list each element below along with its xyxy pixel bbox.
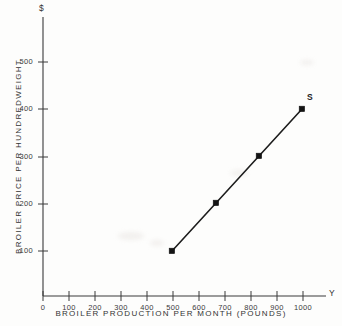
plot-canvas bbox=[0, 0, 342, 326]
x-axis-symbol: Y bbox=[329, 288, 335, 298]
chart-figure: $ Y S 100 200 300 400 500 0 100 200 300 … bbox=[0, 0, 342, 326]
data-point bbox=[299, 106, 304, 111]
data-point bbox=[256, 153, 261, 158]
supply-curve-annotation: S bbox=[307, 92, 313, 102]
y-axis-title: BROILER PRICE PER HUNDREDWEIGHT bbox=[14, 27, 23, 287]
data-point bbox=[213, 200, 218, 205]
supply-curve-line bbox=[172, 109, 302, 251]
x-axis-title: BROILER PRODUCTION PER MONTH (POUNDS) bbox=[0, 309, 342, 318]
y-axis-symbol: $ bbox=[39, 3, 44, 13]
data-point bbox=[169, 248, 174, 253]
